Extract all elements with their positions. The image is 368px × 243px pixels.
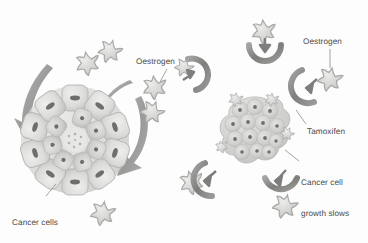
oestrogen-star bbox=[90, 201, 116, 227]
label-stimulated-line1: Cancer cells bbox=[12, 218, 61, 228]
tamoxifen-crescent bbox=[249, 38, 281, 61]
oestrogen-star bbox=[316, 66, 344, 94]
leader-line-tamoxifen bbox=[296, 110, 306, 124]
oestrogen-star bbox=[271, 192, 299, 220]
large-cancer-cell-cluster bbox=[19, 85, 132, 195]
diagram-canvas: Oestrogen Oestrogen Tamoxifen Cancer cel… bbox=[0, 0, 368, 243]
tamoxifen-crescent bbox=[265, 170, 297, 189]
oestrogen-star bbox=[74, 50, 102, 78]
label-tamoxifen: Tamoxifen bbox=[307, 127, 345, 137]
label-oestrogen-middle: Oestrogen bbox=[136, 57, 175, 67]
leader-line-growth-slows bbox=[285, 150, 299, 161]
label-growth-slows-line2: growth slows bbox=[301, 209, 349, 219]
label-oestrogen-right: Oestrogen bbox=[303, 37, 342, 47]
tamoxifen-crescent bbox=[291, 70, 317, 103]
oestrogen-star bbox=[142, 74, 168, 100]
oestrogen-star bbox=[96, 38, 124, 66]
label-cancer-cells-stimulated: Cancer cells stimulated by oestrogen bbox=[12, 197, 61, 243]
label-growth-slows: Cancer cell growth slows bbox=[301, 157, 349, 240]
label-growth-slows-line1: Cancer cell bbox=[301, 178, 349, 188]
small-cancer-cell-cluster bbox=[214, 93, 296, 163]
